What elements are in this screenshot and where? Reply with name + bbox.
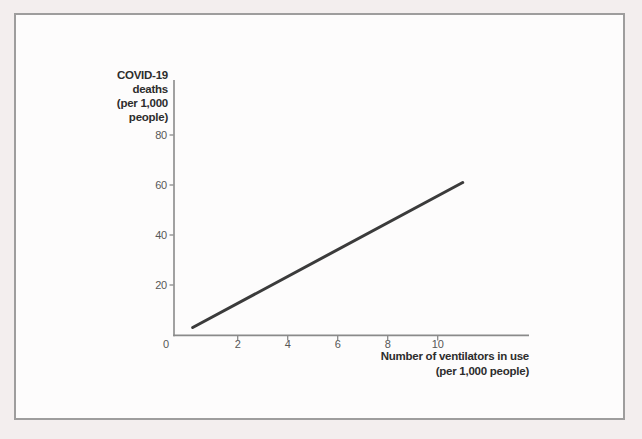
y-axis-title-line: COVID-19 xyxy=(56,68,168,82)
y-tick-label: 80 xyxy=(155,129,167,141)
y-axis-title-line: (per 1,000 xyxy=(56,96,168,110)
x-axis-title-line: Number of ventilators in use xyxy=(269,349,529,364)
y-tick-label: 40 xyxy=(155,229,167,241)
y-axis-title: COVID-19 deaths (per 1,000 people) xyxy=(56,68,168,124)
y-tick-label: 20 xyxy=(155,279,167,291)
page-background: 80 60 40 20 0 2 4 6 8 10 COVID-19 deaths… xyxy=(0,0,642,439)
x-tick-label: 2 xyxy=(235,338,241,350)
y-axis-title-line: deaths xyxy=(56,82,168,96)
figure-panel: 80 60 40 20 0 2 4 6 8 10 COVID-19 deaths… xyxy=(14,13,625,420)
x-axis-title: Number of ventilators in use (per 1,000 … xyxy=(269,349,529,379)
y-tick-label: 60 xyxy=(155,179,167,191)
y-axis-title-line: people) xyxy=(56,110,168,124)
origin-label: 0 xyxy=(163,338,169,350)
regression-line xyxy=(193,183,463,328)
x-axis-title-line: (per 1,000 people) xyxy=(269,364,529,379)
y-tick-marks xyxy=(170,135,174,285)
